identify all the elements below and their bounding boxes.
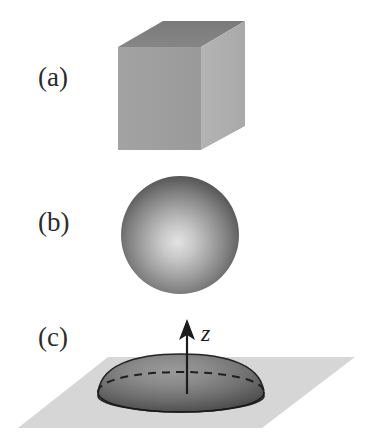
z-axis-label: z bbox=[201, 321, 210, 345]
panel-label-b: (b) bbox=[38, 209, 69, 236]
dome-body bbox=[98, 354, 264, 412]
sphere-body bbox=[121, 176, 239, 294]
sphere-shape bbox=[121, 176, 239, 294]
figure-canvas: (a) (b) (c) z bbox=[0, 0, 369, 444]
cube-front-face bbox=[118, 47, 201, 150]
cube-shape bbox=[118, 21, 245, 150]
panel-label-c: (c) bbox=[38, 324, 68, 351]
panel-label-a: (a) bbox=[38, 64, 68, 91]
dome-shape bbox=[98, 354, 264, 412]
